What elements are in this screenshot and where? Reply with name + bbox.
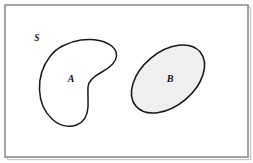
universal-set-label: S bbox=[34, 33, 39, 43]
set-diagram-figure: S A B bbox=[0, 0, 253, 163]
venn-diagram-canvas: S A B bbox=[0, 0, 253, 163]
set-a-label: A bbox=[67, 73, 75, 84]
set-b-label: B bbox=[166, 73, 174, 84]
